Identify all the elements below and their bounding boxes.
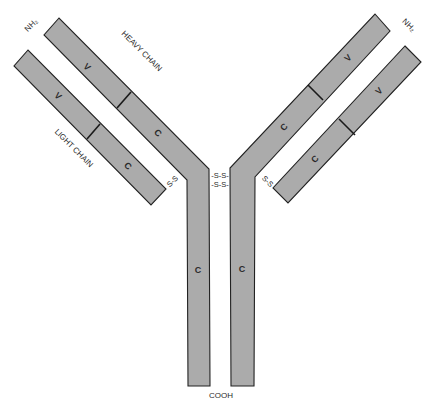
right-heavy-chain: V C C [230,14,390,386]
hinge-disulfide-bottom: -S-S- [211,180,229,189]
left-stem-constant-label: C [195,265,202,275]
right-light-heavy-disulfide: S-S [260,174,275,189]
left-heavy-chain-shape [44,18,210,386]
left-heavy-chain: V C C [44,18,210,386]
heavy-chain-label: HEAVY CHAIN [120,29,164,73]
left-light-heavy-disulfide: S-S [165,174,180,189]
n-terminus-right-label: NH₂ [400,17,417,34]
right-heavy-chain-shape [230,14,390,386]
right-stem-constant-label: C [239,264,246,274]
antibody-diagram: V C C V C V C C V C HEAVY CHAIN LIGHT CH… [0,0,432,405]
n-terminus-left-label: NH₂ [23,17,40,34]
c-terminus-label: COOH [209,391,233,400]
hinge-disulfide-top: -S-S- [211,171,229,180]
